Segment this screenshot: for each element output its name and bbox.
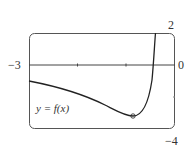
y-max-label: 2 — [168, 18, 174, 32]
viewing-window-frame — [30, 34, 175, 129]
x-min-label: −3 — [8, 58, 21, 72]
function-label: y = f(x) — [35, 102, 69, 115]
y-min-label: −4 — [165, 134, 178, 146]
x-max-label: 0 — [178, 58, 184, 72]
function-plot: −3 0 2 −4 y = f(x) — [0, 0, 194, 146]
